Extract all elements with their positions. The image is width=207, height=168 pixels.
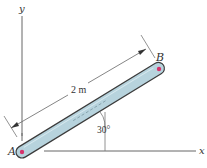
length-label: 2 m bbox=[71, 84, 87, 95]
dimension-arrow-a bbox=[11, 122, 19, 128]
pin-b-icon bbox=[157, 67, 161, 71]
point-b-label: B bbox=[155, 51, 164, 64]
rod bbox=[14, 60, 167, 160]
point-a-label: A bbox=[7, 145, 16, 158]
angle-label: 30° bbox=[97, 125, 111, 135]
dimension-extension-b bbox=[141, 35, 155, 58]
x-axis-label: x bbox=[199, 145, 205, 156]
y-axis-label: y bbox=[18, 3, 25, 14]
dimension-arrow-b bbox=[138, 49, 146, 55]
rod-diagram: y x 2 m 30° A B bbox=[0, 0, 207, 168]
pin-a-icon bbox=[20, 150, 24, 154]
